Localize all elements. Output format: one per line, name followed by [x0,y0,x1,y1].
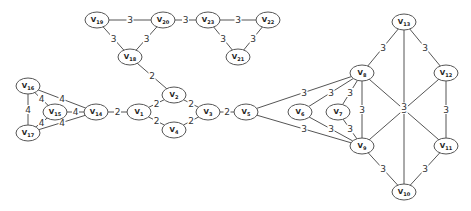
edge-weight-label: 4 [59,94,65,104]
edge-weight-label: 3 [111,34,117,44]
graph-diagram: 33333332444444222222333333333333333 V19V… [0,0,471,211]
edge-weight-label: 2 [188,99,194,109]
node-v4: V4 [162,122,186,138]
edge-weight-label: 3 [301,124,307,134]
edge-weight-label: 3 [144,34,150,44]
node-v6: V6 [288,104,312,120]
edge-weight-label: 3 [422,164,428,174]
node-v20: V20 [151,12,175,28]
edge-weight-label: 3 [380,43,386,53]
node-v21: V21 [226,49,250,65]
node-v12: V12 [434,65,458,81]
node-v2: V2 [162,87,186,103]
edge-weight-label: 3 [347,124,353,134]
node-v15: V15 [43,104,67,120]
edge-weight-label: 2 [188,116,194,126]
node-v8: V8 [350,65,374,81]
edge-weights-layer: 33333332444444222222333333333333333 [25,15,450,174]
edge-weight-label: 3 [443,105,449,115]
edge-weight-label: 4 [39,118,45,128]
node-v14: V14 [84,104,108,120]
node-v13: V13 [392,14,416,30]
edge-weight-label: 3 [359,105,365,115]
node-v18: V18 [118,49,142,65]
edge-weight-label: 3 [422,43,428,53]
edge-weight-label: 3 [328,124,334,134]
edge-weight-label: 3 [328,88,334,98]
edge-weight-label: 3 [380,164,386,174]
edge-weight-label: 3 [250,34,256,44]
edge-weight-label: 3 [347,88,353,98]
node-v22: V22 [256,12,280,28]
node-v19: V19 [85,12,109,28]
edge-weight-label: 2 [154,116,160,126]
edge-weight-label: 4 [25,105,31,115]
edge-weight-label: 2 [149,71,155,81]
node-v23: V23 [196,12,220,28]
node-v17: V17 [16,125,40,141]
edge-weight-label: 2 [154,99,160,109]
node-v1: V1 [127,104,151,120]
node-v5: V5 [234,104,258,120]
nodes-layer: V19V20V23V22V21V18V16V15V14V17V1V2V4V3V5… [16,12,458,200]
edge-weight-label: 4 [39,94,45,104]
edge-weight-label: 3 [220,34,226,44]
edge-weight-label: 2 [224,107,230,117]
edge-weight-label: 3 [301,88,307,98]
node-v7: V7 [326,104,350,120]
edge-weight-label: 4 [73,107,79,117]
node-v3: V3 [196,104,220,120]
node-v16: V16 [16,78,40,94]
edge-weight-label: 3 [183,15,189,25]
edge-weight-label: 3 [127,15,133,25]
edge-weight-label: 3 [235,15,241,25]
node-v9: V9 [350,138,374,154]
node-v11: V11 [434,138,458,154]
edge-weight-label: 2 [115,107,121,117]
node-v10: V10 [392,184,416,200]
edge-weight-label: 3 [401,102,407,112]
